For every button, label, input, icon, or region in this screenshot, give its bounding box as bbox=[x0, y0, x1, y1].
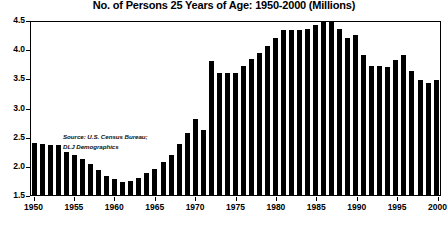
bar bbox=[185, 133, 190, 195]
bar bbox=[385, 67, 390, 195]
bar bbox=[409, 71, 414, 195]
x-axis-tick-label: 1975 bbox=[226, 202, 245, 212]
bar bbox=[249, 59, 254, 196]
bar bbox=[281, 30, 286, 195]
bar bbox=[369, 66, 374, 196]
bar bbox=[136, 178, 141, 196]
source-annotation: Source: U.S. Census Bureau; DLJ Demograp… bbox=[63, 132, 148, 151]
bar bbox=[48, 145, 53, 195]
x-axis-tick-mark bbox=[357, 197, 358, 201]
bar bbox=[32, 143, 37, 195]
bar bbox=[241, 66, 246, 196]
x-axis-tick-label: 1995 bbox=[388, 202, 407, 212]
x-axis-tick-mark bbox=[236, 197, 237, 201]
bar bbox=[177, 144, 182, 195]
bar bbox=[434, 80, 439, 196]
bar-chart: No. of Persons 25 Years of Age: 1950-200… bbox=[0, 0, 448, 229]
bar bbox=[401, 55, 406, 195]
x-axis-tick-label: 1955 bbox=[64, 202, 83, 212]
x-axis-tick-mark bbox=[114, 197, 115, 201]
y-axis-tick-label: 1.5 bbox=[13, 190, 25, 200]
x-axis-tick-mark bbox=[195, 197, 196, 201]
bar bbox=[193, 119, 198, 195]
y-axis-tick-label: 2.0 bbox=[13, 161, 25, 171]
x-axis-tick-label: 1980 bbox=[266, 202, 285, 212]
bar bbox=[337, 29, 342, 195]
bar bbox=[257, 53, 262, 195]
bar bbox=[377, 66, 382, 196]
y-axis-tick-label: 2.5 bbox=[13, 132, 25, 142]
page-title: No. of Persons 25 Years of Age: 1950-200… bbox=[0, 0, 448, 11]
bar bbox=[104, 176, 109, 195]
bar bbox=[144, 173, 149, 195]
bar bbox=[329, 22, 334, 195]
bar bbox=[321, 22, 326, 195]
y-axis-tick-label: 3.0 bbox=[13, 103, 25, 113]
x-axis-tick-label: 1990 bbox=[347, 202, 366, 212]
bar bbox=[361, 55, 366, 195]
bar bbox=[40, 144, 45, 195]
plot-area: Source: U.S. Census Bureau; DLJ Demograp… bbox=[30, 21, 441, 196]
bar bbox=[225, 73, 230, 196]
bar bbox=[313, 25, 318, 195]
bar bbox=[88, 164, 93, 196]
bar bbox=[393, 60, 398, 195]
bar bbox=[289, 30, 294, 195]
x-axis-tick-mark bbox=[397, 197, 398, 201]
bar bbox=[209, 61, 214, 195]
bar bbox=[353, 35, 358, 195]
x-axis-tick-mark bbox=[34, 197, 35, 201]
bar bbox=[152, 169, 157, 195]
bar bbox=[217, 73, 222, 196]
bar bbox=[80, 159, 85, 195]
bar bbox=[161, 162, 166, 195]
x-axis-tick-label: 1970 bbox=[186, 202, 205, 212]
bar bbox=[305, 29, 310, 195]
y-axis-tick-label: 3.5 bbox=[13, 73, 25, 83]
bar bbox=[345, 38, 350, 196]
bar bbox=[64, 152, 69, 195]
bar bbox=[128, 181, 133, 195]
bar bbox=[72, 155, 77, 195]
bar bbox=[426, 83, 431, 195]
x-axis-tick-mark bbox=[155, 197, 156, 201]
y-axis: 4.54.03.53.02.52.01.5 bbox=[0, 0, 30, 229]
bar bbox=[273, 38, 278, 196]
x-axis-tick-label: 2000 bbox=[428, 202, 447, 212]
bar bbox=[201, 130, 206, 195]
bar bbox=[418, 80, 423, 195]
bar bbox=[297, 30, 302, 195]
bar bbox=[169, 155, 174, 195]
x-axis-tick-mark bbox=[74, 197, 75, 201]
y-axis-tick-label: 4.5 bbox=[13, 15, 25, 25]
bar bbox=[112, 179, 117, 195]
bar-series bbox=[31, 22, 440, 195]
x-axis-tick-label: 1960 bbox=[105, 202, 124, 212]
y-axis-tick-label: 4.0 bbox=[13, 44, 25, 54]
x-axis-tick-label: 1965 bbox=[145, 202, 164, 212]
bar bbox=[265, 46, 270, 195]
bar bbox=[56, 145, 61, 195]
x-axis-tick-label: 1985 bbox=[307, 202, 326, 212]
x-axis-tick-mark bbox=[276, 197, 277, 201]
bar bbox=[96, 170, 101, 195]
x-axis-tick-mark bbox=[438, 197, 439, 201]
bar bbox=[233, 73, 238, 196]
x-axis: 1950195519601965197019751980198519901995… bbox=[30, 197, 441, 227]
x-axis-tick-mark bbox=[316, 197, 317, 201]
x-axis-tick-label: 1950 bbox=[24, 202, 43, 212]
bar bbox=[120, 182, 125, 195]
